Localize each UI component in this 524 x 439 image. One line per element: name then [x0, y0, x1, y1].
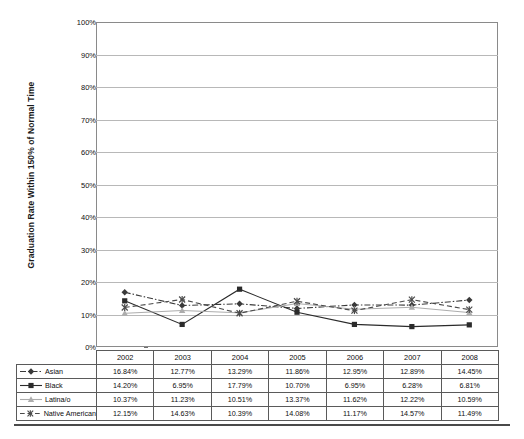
data-point-marker: [28, 383, 33, 388]
y-tick-label: 70%: [62, 115, 96, 124]
data-point-marker: [28, 368, 34, 374]
table-cell: 13.29%: [211, 365, 268, 379]
table-cell: 14.63%: [154, 407, 211, 421]
legend-row-native-american: Native American: [17, 407, 97, 421]
table-row: Asian16.84%12.77%13.29%11.86%12.95%12.89…: [17, 365, 499, 379]
legend-label: Black: [45, 381, 63, 390]
table-cell: 11.23%: [154, 393, 211, 407]
data-point-marker: [236, 301, 242, 307]
plot-area: [96, 22, 498, 347]
table-cell: 12.89%: [384, 365, 441, 379]
table-column-header-2008: 2008: [441, 351, 498, 365]
legend-label: Native American: [44, 409, 96, 418]
data-point-marker: [352, 322, 357, 327]
table-column-header-2007: 2007: [384, 351, 441, 365]
table-cell: 12.95%: [326, 365, 383, 379]
y-axis-tick-column: 0%10%20%30%40%50%60%70%80%90%100%: [52, 22, 96, 347]
table-cell: 6.81%: [441, 379, 498, 393]
table-cell: 10.70%: [269, 379, 326, 393]
y-axis-title: Graduation Rate Within 150% of Normal Ti…: [24, 60, 38, 290]
legend-swatch-triangle-icon: [20, 395, 42, 404]
y-tick-mark: [144, 347, 148, 348]
y-tick-label: 10%: [62, 310, 96, 319]
legend-row-latina-o: Latina/o: [17, 393, 97, 407]
data-table: 2002200320042005200620072008 Asian16.84%…: [16, 350, 499, 421]
table-cell: 13.37%: [269, 393, 326, 407]
table-cell: 11.17%: [326, 407, 383, 421]
table-column-header-2002: 2002: [97, 351, 154, 365]
table-cell: 11.86%: [269, 365, 326, 379]
table-cell: 12.22%: [384, 393, 441, 407]
y-tick-label: 100%: [62, 18, 96, 27]
data-point-marker: [122, 298, 127, 303]
table-cell: 6.95%: [154, 379, 211, 393]
table-cell: 10.51%: [211, 393, 268, 407]
bottom-divider: [14, 424, 510, 426]
table-body: Asian16.84%12.77%13.29%11.86%12.95%12.89…: [17, 365, 499, 421]
y-tick-label: 20%: [62, 278, 96, 287]
y-tick-label: 30%: [62, 245, 96, 254]
table-header-row: 2002200320042005200620072008: [17, 351, 499, 365]
table-cell: 14.57%: [384, 407, 441, 421]
data-point-marker: [122, 289, 128, 295]
table-cell: 10.59%: [441, 393, 498, 407]
table-column-header-2006: 2006: [326, 351, 383, 365]
table-cell: 14.20%: [97, 379, 154, 393]
table-column-header-2005: 2005: [269, 351, 326, 365]
data-point-marker: [409, 324, 414, 329]
table-cell: 16.84%: [97, 365, 154, 379]
legend-label: Asian: [45, 367, 63, 376]
legend-row-black: Black: [17, 379, 97, 393]
y-tick-label: 40%: [62, 213, 96, 222]
table-column-header-2004: 2004: [211, 351, 268, 365]
data-point-marker: [467, 322, 472, 327]
y-tick-label: 60%: [62, 148, 96, 157]
table-row: Native American12.15%14.63%10.39%14.08%1…: [17, 407, 499, 421]
legend-row-asian: Asian: [17, 365, 97, 379]
table-cell: 11.62%: [326, 393, 383, 407]
legend-swatch-x-icon: [20, 409, 41, 418]
table-cell: 14.08%: [269, 407, 326, 421]
data-point-marker: [180, 322, 185, 327]
table-cell: 12.15%: [97, 407, 154, 421]
chart-figure: Graduation Rate Within 150% of Normal Ti…: [0, 0, 524, 439]
table-cell: 17.79%: [211, 379, 268, 393]
table-cell: 6.95%: [326, 379, 383, 393]
legend-swatch-square-icon: [20, 381, 42, 390]
table-cell: 14.45%: [441, 365, 498, 379]
table-cell: 10.39%: [211, 407, 268, 421]
data-point-marker: [237, 287, 242, 292]
legend-swatch-diamond-icon: [20, 367, 42, 376]
y-tick-label: 50%: [62, 180, 96, 189]
table-row: Latina/o10.37%11.23%10.51%13.37%11.62%12…: [17, 393, 499, 407]
y-tick-label: 90%: [62, 50, 96, 59]
table-cell: 6.28%: [384, 379, 441, 393]
table-cell: 10.37%: [97, 393, 154, 407]
table-row: Black14.20%6.95%17.79%10.70%6.95%6.28%6.…: [17, 379, 499, 393]
table-cell: 11.49%: [441, 407, 498, 421]
legend-label: Latina/o: [45, 395, 71, 404]
table-column-header-2003: 2003: [154, 351, 211, 365]
data-point-marker: [466, 297, 472, 303]
series-lines-layer: [96, 22, 498, 347]
data-point-marker: [294, 310, 299, 315]
table-cell: 12.77%: [154, 365, 211, 379]
table-corner-cell: [17, 351, 97, 365]
y-tick-label: 80%: [62, 83, 96, 92]
